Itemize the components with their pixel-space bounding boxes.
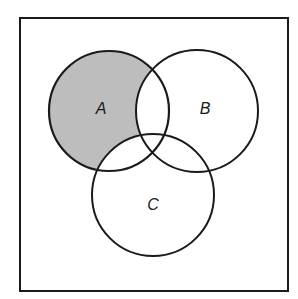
- venn-diagram: A B C: [0, 0, 298, 299]
- set-b-label: B: [200, 100, 211, 117]
- set-a-label: A: [95, 100, 107, 117]
- set-c-label: C: [147, 196, 159, 213]
